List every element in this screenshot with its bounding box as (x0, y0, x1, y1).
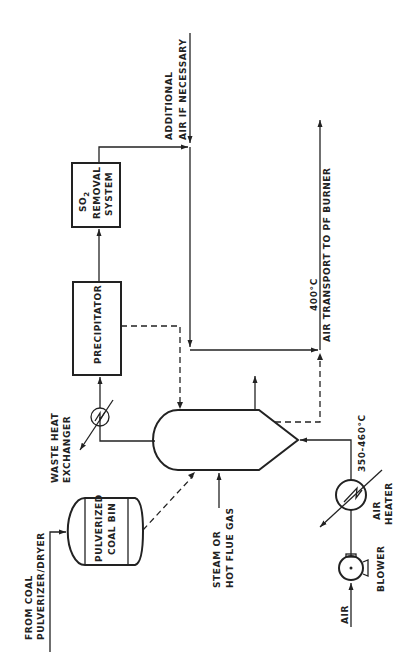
svg-text:HEATER: HEATER (384, 482, 394, 525)
air-label: AIR (340, 605, 350, 624)
svg-text:WASTE HEAT: WASTE HEAT (50, 412, 60, 483)
svg-text:EXCHANGER: EXCHANGER (62, 416, 72, 483)
air-heater: AIR HEATER (320, 470, 394, 527)
svg-text:AIR: AIR (372, 501, 382, 520)
svg-text:PULVERIZED: PULVERIZED (94, 494, 104, 562)
additional-air-label-2: AIR IF NECESSARY (178, 38, 188, 140)
dashed-vessel-to-product (275, 356, 320, 422)
additional-air-label: ADDITIONAL (164, 71, 174, 140)
coal-feed-line (50, 532, 66, 652)
precipitator: PRECIPITATOR (73, 282, 121, 375)
svg-text:PRECIPITATOR: PRECIPITATOR (93, 285, 103, 364)
coal-feed-label: FROM COAL (24, 575, 34, 640)
hot-air-to-vessel (300, 440, 351, 480)
steam-label-2: HOT FLUE GAS (225, 507, 235, 588)
coal-feed-label-2: PULVERIZER/DRYER (36, 532, 46, 640)
blower: BLOWER (339, 545, 386, 592)
reactor-vessel (153, 410, 298, 470)
air-temp-label: 350-460°C (357, 414, 367, 472)
product-label: AIR TRANSPORT TO PF BURNER (322, 167, 332, 342)
product-temp-label: 400°C (309, 278, 319, 311)
svg-text:BLOWER: BLOWER (376, 545, 386, 592)
steam-label: STEAM OR (212, 531, 222, 588)
waste-heat-exchanger: WASTE HEAT EXCHANGER (50, 377, 155, 483)
svg-text:REMOVAL: REMOVAL (92, 166, 102, 219)
svg-text:SO2: SO2 (78, 191, 91, 212)
process-flow-diagram: SO2 REMOVAL SYSTEM PRECIPITATOR WASTE HE… (0, 0, 413, 661)
svg-text:SYSTEM: SYSTEM (104, 172, 114, 216)
pulverized-coal-bin: PULVERIZED COAL BIN (68, 494, 143, 565)
svg-text:COAL BIN: COAL BIN (107, 503, 117, 555)
dashed-precip-to-vessel (121, 326, 180, 407)
dashed-bin-to-vessel (143, 476, 193, 530)
flow-so2-to-main (99, 147, 188, 163)
so2-removal-system: SO2 REMOVAL SYSTEM (72, 163, 120, 227)
